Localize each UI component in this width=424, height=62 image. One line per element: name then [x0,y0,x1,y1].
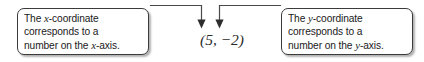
callout-x-line3-pre: number on the [24,40,91,51]
ordered-pair-label: (5, −2) [186,31,258,49]
connector-line-x [151,6,202,21]
callout-x-coordinate: The x-coordinate corresponds to a number… [17,8,149,55]
callout-y-coordinate: The y-coordinate corresponds to a number… [281,8,413,55]
callout-y-line3-post: -axis. [360,40,384,51]
callout-y-line-2: corresponds to a [288,25,406,38]
callout-y-line-1: The y-coordinate [288,12,406,25]
callout-y-line1-post: -coordinate [313,13,363,24]
arrowhead-y [215,20,223,29]
callout-y-line-3: number on the y-axis. [288,39,406,52]
coordinate-annotation-figure: The x-coordinate corresponds to a number… [0,0,424,62]
connector-line-y [220,6,281,21]
callout-x-line3-post: -axis. [96,40,120,51]
arrowhead-x [197,20,205,29]
callout-y-line3-pre: number on the [288,40,355,51]
callout-y-line1-pre: The [288,13,308,24]
callout-x-line-1: The x-coordinate [24,12,142,25]
callout-x-line-3: number on the x-axis. [24,39,142,52]
callout-x-line1-post: -coordinate [49,13,99,24]
callout-x-line-2: corresponds to a [24,25,142,38]
callout-x-line1-pre: The [24,13,44,24]
